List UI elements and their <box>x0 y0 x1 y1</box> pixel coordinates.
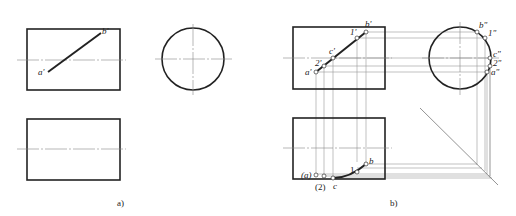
miter-line-45 <box>420 108 498 185</box>
label-a-prime-b: a' <box>305 67 313 77</box>
point-b-top <box>364 162 368 166</box>
projection-lines-vertical-side <box>477 32 490 178</box>
point-b-dprime <box>475 30 479 34</box>
label-2-top: (2) <box>315 182 326 192</box>
orthographic-projection-figure: a' b' a) <box>0 0 516 216</box>
point-a-prime <box>314 70 318 74</box>
label-1-dprime: 1" <box>488 28 497 38</box>
panel-b: a' 2' c' 1' b' b" 1" c" 2" a" (a) (2) c … <box>283 19 502 208</box>
point-2-top <box>322 174 326 178</box>
label-a-prime-a: a' <box>38 67 46 77</box>
point-a-dprime <box>485 70 489 74</box>
point-c-top <box>331 176 335 180</box>
label-c-prime-b: c' <box>329 46 336 56</box>
label-1-top: 1 <box>350 165 355 175</box>
label-b-top: b <box>369 156 374 166</box>
label-a-top: (a) <box>301 170 312 180</box>
caption-a: a) <box>117 198 124 208</box>
point-2-prime <box>322 64 326 68</box>
label-b-prime-b: b' <box>365 19 373 29</box>
label-b-prime-a: b' <box>102 26 110 36</box>
label-a-dprime: a" <box>491 67 500 77</box>
point-c-dprime <box>488 56 492 60</box>
label-1-prime-b: 1' <box>350 27 358 37</box>
caption-b: b) <box>390 198 398 208</box>
label-c-top: c <box>333 181 337 191</box>
point-b-prime <box>364 30 368 34</box>
top-view-rect-a <box>27 119 120 180</box>
panel-a: a' b' a) <box>17 24 232 208</box>
front-view-rect-a <box>27 29 120 90</box>
point-a-top <box>314 173 318 177</box>
label-b-dprime: b" <box>479 20 488 30</box>
point-1-dprime <box>483 36 487 40</box>
point-c-prime <box>331 56 335 60</box>
projection-lines-vertical <box>316 32 366 178</box>
line-ab-front-a <box>48 33 101 72</box>
label-2-prime-b: 2' <box>315 58 323 68</box>
point-1-top <box>355 170 359 174</box>
